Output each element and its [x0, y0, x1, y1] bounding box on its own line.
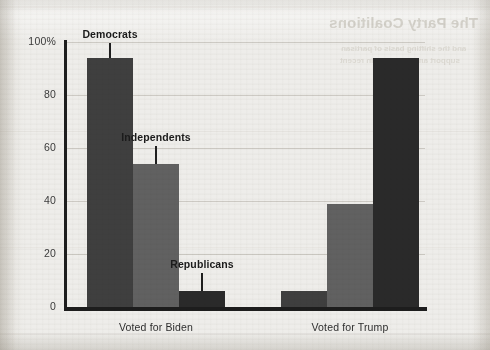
callout-label-democrats: Democrats: [20, 28, 200, 40]
y-axis-line: [64, 40, 67, 310]
callout-leader-line-independents: [155, 146, 156, 164]
bar-independents-voted-for-biden[interactable]: [133, 164, 179, 307]
bar-republicans-voted-for-trump[interactable]: [373, 58, 419, 307]
y-tick-label-80: 80: [6, 88, 56, 100]
chart-page: The Party Coalitions and the shifting ba…: [0, 0, 490, 350]
bar-chart: 020406080100%Voted for BidenVoted for Tr…: [0, 0, 490, 350]
callout-label-republicans: Republicans: [112, 258, 292, 270]
y-tick-label-40: 40: [6, 194, 56, 206]
group-label-voted-for-trump: Voted for Trump: [270, 321, 430, 333]
gridline-100: [64, 42, 425, 43]
x-axis-line: [64, 307, 427, 311]
group-label-voted-for-biden: Voted for Biden: [76, 321, 236, 333]
bar-democrats-voted-for-trump[interactable]: [281, 291, 327, 307]
y-tick-label-60: 60: [6, 141, 56, 153]
callout-leader-line-republicans: [201, 273, 202, 291]
y-tick-label-20: 20: [6, 247, 56, 259]
callout-label-independents: Independents: [66, 131, 246, 143]
bar-republicans-voted-for-biden[interactable]: [179, 291, 225, 307]
callout-leader-line-democrats: [109, 43, 110, 58]
y-tick-label-0: 0: [6, 300, 56, 312]
bar-independents-voted-for-trump[interactable]: [327, 204, 373, 307]
